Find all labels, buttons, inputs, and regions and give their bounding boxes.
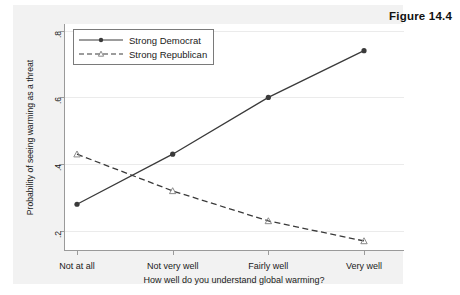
x-tick-mark — [173, 251, 174, 255]
series-strong-democrat — [74, 48, 366, 207]
line-chart: .2.4.6.8 Not at allNot very wellFairly w… — [13, 5, 403, 284]
data-point-marker-circle — [170, 152, 175, 157]
legend-item-strong-republican[interactable]: Strong Republican — [78, 47, 207, 61]
data-point-marker-circle — [74, 202, 79, 207]
y-tick-label: .8 — [53, 31, 63, 47]
y-tick-label: .4 — [53, 164, 63, 180]
x-tick-label: Fairly well — [248, 261, 288, 271]
legend-label-strong-democrat: Strong Democrat — [129, 35, 201, 46]
y-axis-label: Probability of seeing warming as a threa… — [25, 24, 35, 251]
legend-label-strong-republican: Strong Republican — [129, 49, 207, 60]
x-tick-label: Very well — [346, 261, 382, 271]
x-tick-mark — [77, 251, 78, 255]
series-strong-republican — [74, 151, 367, 244]
x-tick-label: Not very well — [147, 261, 199, 271]
x-axis-label: How well do you understand global warmin… — [64, 275, 404, 285]
legend-item-strong-democrat[interactable]: Strong Democrat — [78, 33, 207, 47]
x-tick-mark — [364, 251, 365, 255]
data-point-marker-circle — [361, 48, 366, 53]
series-line — [77, 51, 364, 205]
plot-area: .2.4.6.8 Not at allNot very wellFairly w… — [64, 24, 404, 251]
x-tick-label: Not at all — [59, 261, 95, 271]
y-tick-label: .6 — [53, 97, 63, 113]
chart-legend: Strong Democrat Strong Republican — [73, 29, 214, 65]
x-tick-mark — [268, 251, 269, 255]
figure-root: Figure 14.4 .2.4.6.8 Not at allNot very … — [0, 0, 460, 295]
data-point-marker-circle — [266, 95, 271, 100]
data-point-marker-triangle — [74, 151, 80, 157]
series-line — [77, 154, 364, 241]
y-tick-label: .2 — [53, 231, 63, 247]
legend-key-solid-circle-icon — [78, 34, 124, 46]
legend-key-dashed-triangle-icon — [78, 48, 124, 60]
